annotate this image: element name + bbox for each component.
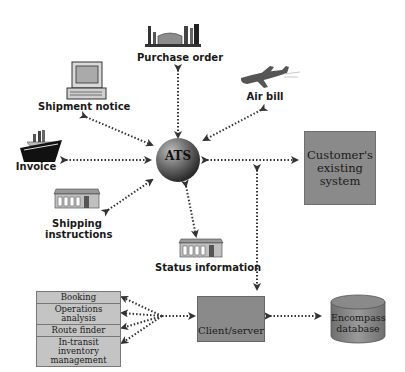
- module-route-finder-label: Route finder: [37, 326, 120, 335]
- shipment-notice-connector: [86, 117, 152, 145]
- encompass-db-line1: Encompass: [331, 312, 385, 323]
- shipping-instructions-label: Shipping instructions: [45, 218, 109, 240]
- module-route-finder: Route finder: [37, 325, 120, 337]
- module-in-transit-line2: management: [37, 356, 120, 365]
- shipment-notice-label: Shipment notice: [38, 101, 128, 112]
- status-information-label: Status information: [155, 262, 255, 273]
- computer-icon: [67, 62, 106, 99]
- factory-icon: [145, 24, 201, 47]
- shipping-instructions-connector: [108, 180, 152, 210]
- ats-label: ATS: [158, 149, 198, 163]
- customer-system-line3: system: [307, 175, 373, 188]
- module-operations-line2: analysis: [37, 314, 120, 323]
- status-information-connector: [186, 186, 196, 236]
- purchase-order-label: Purchase order: [137, 52, 219, 63]
- shipping-instructions-line2: instructions: [45, 229, 109, 240]
- module-in-transit-inventory: In-transit inventory management: [37, 337, 120, 366]
- customer-system-line1: Customer's: [307, 149, 373, 162]
- warehouse-icon-shipping: [54, 189, 100, 208]
- module-in-transit-line1: In-transit inventory: [37, 338, 120, 356]
- client-server-label: Client/server: [198, 325, 264, 336]
- module-operations-analysis: Operations analysis: [37, 304, 120, 325]
- encompass-db-line2: database: [331, 323, 385, 334]
- customer-system-line2: existing: [307, 162, 373, 175]
- ats-diagram: Purchase order Shipment notice Air bill …: [0, 0, 405, 372]
- encompass-database-label: Encompass database: [331, 312, 385, 334]
- module-booking-label: Booking: [37, 293, 120, 302]
- module-booking: Booking: [37, 292, 120, 304]
- airplane-icon: [241, 66, 300, 88]
- warehouse-icon-status: [179, 239, 223, 257]
- shipping-instructions-line1: Shipping: [45, 218, 109, 229]
- air-bill-connector: [204, 110, 261, 140]
- ship-icon: [20, 130, 62, 162]
- customer-existing-system-box: Customer's existing system: [304, 131, 376, 205]
- modules-stack: Booking Operations analysis Route finder…: [36, 291, 121, 367]
- client-server-box: Client/server: [197, 296, 265, 342]
- air-bill-label: Air bill: [240, 91, 290, 102]
- invoice-label: Invoice: [15, 161, 57, 172]
